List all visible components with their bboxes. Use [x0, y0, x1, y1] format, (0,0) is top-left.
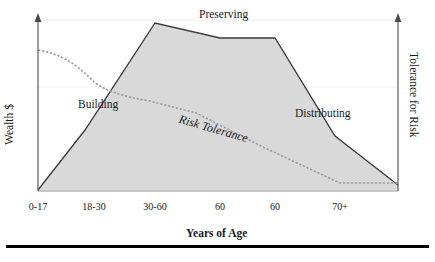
annotation-preserving: Preserving: [199, 9, 248, 21]
left-axis-arrow-icon: [35, 13, 42, 22]
x-tick-label: 60: [215, 202, 225, 212]
x-tick-label: 30-60: [143, 202, 166, 212]
x-tick-label: 70+: [332, 202, 348, 212]
x-tick-label: 60: [270, 202, 280, 212]
x-tick-label: 18-30: [82, 202, 105, 212]
x-tick-label: 0-17: [29, 202, 47, 212]
right-axis-arrow-icon: [395, 13, 402, 22]
annotation-building: Building: [78, 99, 118, 111]
x-axis-title: Years of Age: [186, 228, 247, 240]
bottom-divider-rule: [6, 245, 429, 248]
y-axis-title-wealth: Wealth $: [4, 104, 16, 145]
retirement-wealth-risk-chart: Preserving Building Distributing Risk To…: [0, 0, 435, 262]
y2-axis-title-tolerance-for-risk: Tolerance for Risk: [408, 52, 420, 137]
annotation-distributing: Distributing: [295, 108, 351, 120]
